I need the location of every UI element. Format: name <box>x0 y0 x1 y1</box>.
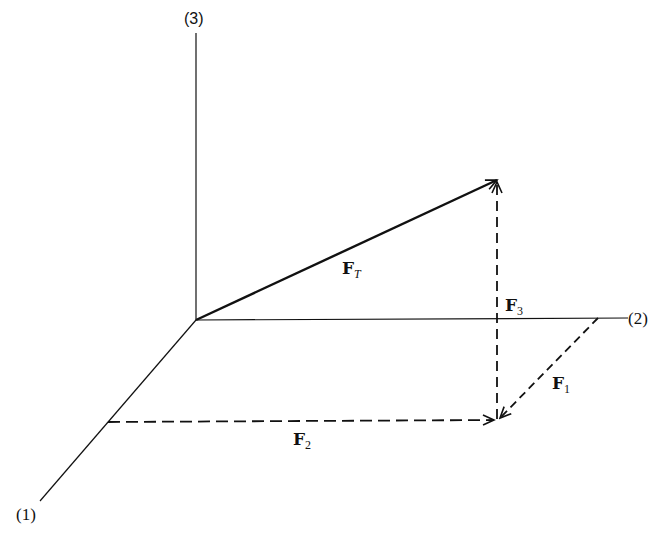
vector-f2 <box>108 420 494 422</box>
vector-f1-label: F1 <box>552 373 570 396</box>
vector-f1 <box>500 318 598 418</box>
axis-1-line <box>40 320 196 501</box>
axis-2-line <box>196 318 628 320</box>
vector-ft <box>196 180 497 320</box>
force-vector-diagram: (3) (2) (1) FT F3 F1 F2 <box>0 0 659 534</box>
vector-f3-label: F3 <box>505 295 523 318</box>
vector-f2-label: F2 <box>293 429 311 452</box>
axis-3-label: (3) <box>184 10 204 27</box>
vector-ft-label: FT <box>342 258 362 281</box>
axis-1-label: (1) <box>16 505 36 524</box>
axis-2-label: (2) <box>628 309 648 328</box>
